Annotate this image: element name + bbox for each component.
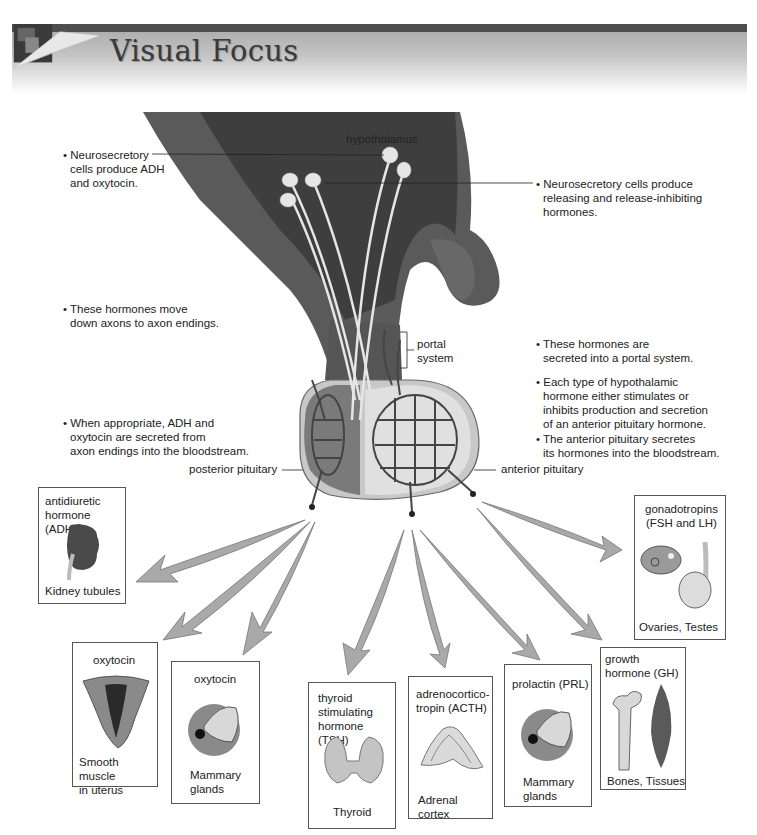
- label-posterior-pituitary: posterior pituitary: [189, 463, 277, 475]
- label-hypothalamus: hypothalamus: [346, 133, 418, 145]
- annotation-line: • These hormones are: [536, 337, 693, 351]
- annotation-line: • Neurosecretory cells produce: [536, 177, 702, 191]
- annotation-line: of an anterior pituitary hormone.: [536, 417, 708, 431]
- annotation-line: oxytocin are secreted from: [63, 430, 249, 444]
- annotation-line: hormone either stimulates or: [536, 389, 708, 403]
- bone-muscle-icon: [601, 648, 687, 791]
- annotation-line: secreted into a portal system.: [536, 351, 693, 365]
- arrow-to-gonadotropins: [482, 502, 622, 562]
- card-gh: growth hormone (GH) Bones, Tissues: [600, 647, 686, 790]
- card-target: Mammary glands: [190, 768, 241, 796]
- target-line: Smooth muscle: [79, 755, 157, 783]
- card-gonadotropins: gonadotropins (FSH and LH) Ovaries, Test…: [634, 495, 726, 640]
- annotation-line: cells produce ADH: [63, 162, 165, 176]
- card-prl: prolactin (PRL) Mammary glands: [504, 664, 592, 807]
- target-line: in uterus: [79, 783, 157, 797]
- annotation-adh-oxytocin-secreted: • When appropriate, ADH and oxytocin are…: [63, 416, 249, 458]
- annotation-line: axon endings into the bloodstream.: [63, 444, 249, 458]
- card-target: Adrenal cortex: [418, 793, 492, 821]
- card-target: Ovaries, Testes: [639, 620, 718, 634]
- annotation-line: • When appropriate, ADH and: [63, 416, 249, 430]
- target-line: glands: [523, 789, 574, 803]
- annotation-line: and oxytocin.: [63, 176, 165, 190]
- card-target: Bones, Tissues: [607, 774, 685, 788]
- card-oxytocin-mammary: oxytocin Mammary glands: [171, 661, 260, 804]
- annotation-move-down-axons: • These hormones move down axons to axon…: [63, 302, 219, 330]
- annotation-portal-secretion: • These hormones are secreted into a por…: [536, 337, 693, 365]
- annotation-line: • The anterior pituitary secretes: [536, 432, 719, 446]
- target-line: glands: [190, 782, 241, 796]
- annotation-line: • Each type of hypothalamic: [536, 375, 708, 389]
- card-oxytocin-uterus: oxytocin Smooth muscle in uterus: [72, 642, 158, 787]
- target-line: Mammary: [190, 768, 241, 782]
- annotation-anterior-secretes: • The anterior pituitary secretes its ho…: [536, 432, 719, 460]
- annotation-line: inhibits production and secretion: [536, 403, 708, 417]
- card-acth: adrenocortico- tropin (ACTH) Adrenal cor…: [408, 676, 493, 819]
- arrow-to-acth: [412, 530, 450, 668]
- label-portal-system-2: system: [417, 352, 453, 364]
- annotation-stimulates-inhibits: • Each type of hypothalamic hormone eith…: [536, 375, 708, 431]
- annotation-line: • These hormones move: [63, 302, 219, 316]
- annotation-line: • Neurosecretory: [63, 148, 165, 162]
- card-target: Kidney tubules: [45, 584, 120, 598]
- arrow-to-gh: [477, 508, 602, 640]
- annotation-line: down axons to axon endings.: [63, 316, 219, 330]
- annotation-line: its hormones into the bloodstream.: [536, 446, 719, 460]
- annotation-neurosecretory-releasing: • Neurosecretory cells produce releasing…: [536, 177, 702, 219]
- hormone-arrows: [136, 502, 622, 675]
- hypothalamus-illustration: [143, 112, 500, 380]
- card-target: Smooth muscle in uterus: [79, 755, 157, 797]
- annotation-neurosecretory-adh: • Neurosecretory cells produce ADH and o…: [63, 148, 165, 190]
- card-adh: antidiuretic hormone (ADH) Kidney tubule…: [38, 487, 126, 604]
- label-portal-system-1: portal: [417, 338, 446, 350]
- card-tsh: thyroid stimulating hormone (TSH) Thyroi…: [308, 682, 396, 829]
- card-target: Thyroid: [333, 805, 371, 819]
- annotation-line: releasing and release-inhibiting: [536, 191, 702, 205]
- card-target: Mammary glands: [523, 775, 574, 803]
- target-line: Mammary: [523, 775, 574, 789]
- arrow-to-tsh: [343, 530, 404, 675]
- annotation-line: hormones.: [536, 205, 702, 219]
- label-anterior-pituitary: anterior pituitary: [501, 463, 583, 475]
